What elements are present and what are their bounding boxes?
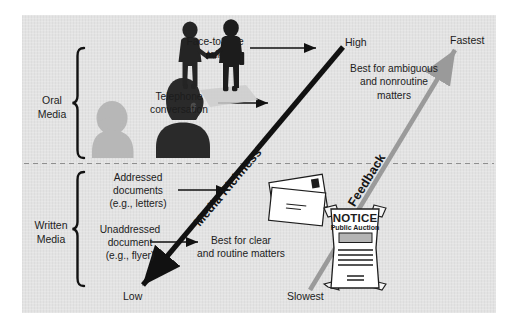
axis-label-low: Low: [123, 290, 142, 302]
annotation-top: Best for ambiguous and nonroutine matter…: [340, 62, 448, 102]
axis-label-fastest: Fastest: [450, 34, 484, 46]
annotation-bottom: Best for clear and routine matters: [176, 234, 306, 261]
callout-unaddressed-document: Unaddressed document (e.g., flyer): [88, 224, 172, 262]
annotation-bottom-line2: and routine matters: [176, 247, 306, 260]
oral-media-line2: Media: [30, 108, 74, 122]
axis-label-high: High: [345, 36, 367, 48]
annotation-top-line1: Best for ambiguous: [340, 62, 448, 75]
stacked-envelopes-icon: [269, 174, 328, 226]
oral-media-line1: Oral: [30, 94, 74, 108]
annotation-top-line3: matters: [340, 89, 448, 102]
callout-telephone: Telephone conversation: [140, 91, 218, 117]
callout-telephone-line2: conversation: [140, 104, 218, 117]
written-media-line2: Media: [26, 233, 76, 247]
written-media-line1: Written: [26, 219, 76, 233]
axis-label-slowest: Slowest: [287, 290, 324, 302]
callout-telephone-line1: Telephone: [140, 91, 218, 104]
callout-face-to-face: Face-to-face talk: [178, 36, 252, 62]
group-label-written-media: Written Media: [26, 219, 76, 246]
callout-addressed-line2: documents: [98, 185, 178, 198]
callout-unaddressed-line2: document: [88, 237, 172, 250]
group-label-oral-media: Oral Media: [30, 94, 74, 121]
media-richness-diagram: NOTICE Public Auction Oral Media Written…: [0, 0, 514, 329]
oral-media-brace: [73, 48, 85, 158]
annotation-bottom-line1: Best for clear: [176, 234, 306, 247]
callout-face-to-face-line2: talk: [178, 49, 252, 62]
person-listening-silhouette-icon: [92, 101, 134, 158]
callout-addressed-line3: (e.g., letters): [98, 198, 178, 211]
annotation-top-line2: and nonroutine: [340, 75, 448, 88]
callout-unaddressed-line1: Unaddressed: [88, 224, 172, 237]
callout-unaddressed-line3: (e.g., flyer): [88, 250, 172, 263]
callout-addressed-documents: Addressed documents (e.g., letters): [98, 172, 178, 210]
notice-poster-subtitle: Public Auction: [330, 224, 380, 232]
callout-addressed-line1: Addressed: [98, 172, 178, 185]
diagram-vector-layer: [0, 0, 514, 329]
callout-face-to-face-line1: Face-to-face: [178, 36, 252, 49]
